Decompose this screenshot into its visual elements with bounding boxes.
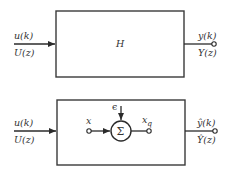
- input-label-time: u(k): [14, 117, 34, 128]
- block-diagram: H u(k) U(z) y(k) Y(z) u(k) U(z) ŷ(k) Ŷ(z…: [0, 0, 231, 171]
- output-label-freq: Ŷ(z): [197, 134, 216, 145]
- xq-node: [147, 129, 151, 133]
- top-system: H u(k) U(z) y(k) Y(z): [14, 11, 217, 77]
- input-label-freq: U(z): [14, 134, 35, 145]
- x-node: [87, 129, 91, 133]
- bottom-system: u(k) U(z) ŷ(k) Ŷ(z) x Σ ϵ xq: [14, 100, 217, 165]
- block-label-h: H: [115, 38, 125, 49]
- x-node-label: x: [86, 115, 92, 126]
- output-label-time: ŷ(k): [196, 117, 216, 128]
- epsilon-label: ϵ: [112, 101, 117, 112]
- sigma-symbol: Σ: [117, 125, 125, 138]
- output-node: [212, 42, 216, 46]
- output-label-time: y(k): [197, 30, 217, 41]
- input-label-time: u(k): [14, 30, 34, 41]
- output-label-freq: Y(z): [198, 47, 217, 58]
- input-label-freq: U(z): [14, 47, 35, 58]
- output-node: [213, 129, 217, 133]
